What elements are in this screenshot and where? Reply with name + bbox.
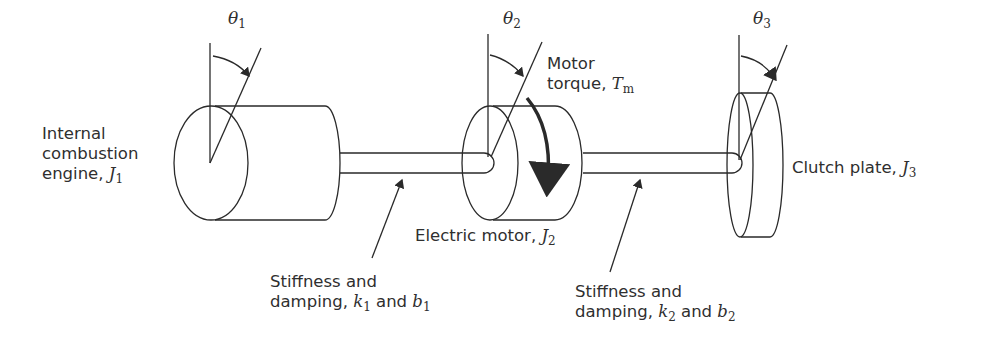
shaft-1 bbox=[340, 153, 494, 173]
motor-front-face bbox=[462, 106, 518, 220]
shaft2-stiffness-damping-label: Stiffness and damping, k2 and b2 bbox=[575, 282, 736, 323]
theta3-angle-indicator bbox=[739, 35, 787, 160]
motor-torque-arrow bbox=[527, 98, 549, 180]
theta1-angle-indicator bbox=[210, 43, 261, 163]
shaft2-leader-line bbox=[610, 180, 640, 272]
shaft-2 bbox=[583, 153, 742, 173]
motor-torque-label: Motor torque, Tm bbox=[547, 54, 634, 95]
engine-front-face bbox=[174, 106, 248, 220]
theta3-label: θ3 bbox=[753, 8, 771, 28]
engine-label: Internal combustion engine, J1 bbox=[42, 124, 138, 185]
shaft1-leader-line bbox=[372, 180, 402, 258]
electric-motor-inertia-j2 bbox=[462, 106, 582, 220]
clutch-plate-inertia-j3 bbox=[727, 93, 783, 237]
electric-motor-label: Electric motor, J2 bbox=[415, 226, 556, 247]
clutch-body bbox=[741, 93, 783, 237]
clutch-front-face bbox=[727, 93, 753, 237]
shaft1-stiffness-damping-label: Stiffness and damping, k1 and b1 bbox=[270, 272, 431, 313]
engine-inertia-j1 bbox=[174, 106, 340, 220]
theta1-label: θ1 bbox=[228, 8, 246, 28]
clutch-plate-label: Clutch plate, J3 bbox=[792, 158, 916, 179]
engine-body bbox=[215, 106, 340, 220]
theta2-label: θ2 bbox=[503, 8, 521, 28]
